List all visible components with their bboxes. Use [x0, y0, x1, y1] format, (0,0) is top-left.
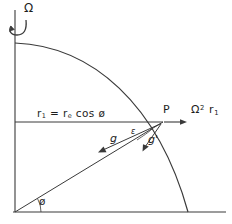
centrifugal-arrowhead: [180, 119, 187, 124]
r1-equation-equals: = r: [46, 107, 67, 119]
g-prime-vector-label: g': [148, 134, 158, 145]
centrifugal-r-sub: 1: [214, 109, 219, 117]
figure-canvas: Ω r1 = re cos ø P Ω2 r1 g g' ε ø: [0, 0, 232, 224]
phi-angle-label: ø: [39, 196, 45, 207]
centrifugal-label: Ω2 r1: [191, 104, 219, 116]
epsilon-angle-label: ε: [131, 128, 135, 136]
earth-radius-line: [15, 122, 163, 212]
centrifugal-omega: Ω: [191, 103, 200, 116]
r1-equation-cos: cos ø: [72, 107, 105, 119]
g-vector-arrowhead: [98, 147, 107, 153]
r1-equation: r1 = re cos ø: [37, 108, 105, 120]
rotation-axis-label: Ω: [24, 2, 33, 14]
point-p-label: P: [163, 104, 170, 115]
centrifugal-r: r: [205, 103, 214, 116]
g-vector-label: g: [110, 133, 117, 144]
earth-surface-arc: [15, 43, 188, 212]
